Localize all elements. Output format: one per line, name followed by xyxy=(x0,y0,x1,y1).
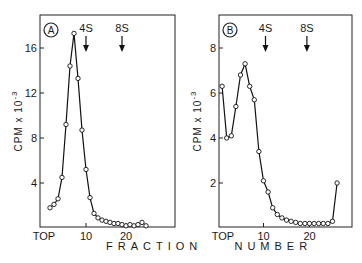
marker-label-8s: 8S xyxy=(115,22,128,34)
data-point xyxy=(289,219,293,223)
data-point xyxy=(307,221,311,225)
data-point xyxy=(84,167,88,171)
panel-letter: A xyxy=(48,25,55,36)
data-point xyxy=(80,128,84,132)
data-point xyxy=(64,122,68,126)
data-point xyxy=(248,84,252,88)
y-tick-label: 16 xyxy=(25,42,37,54)
y-tick-label: 6 xyxy=(210,87,216,99)
data-point xyxy=(294,220,298,224)
panel-letter: B xyxy=(227,25,234,36)
marker-label-4s: 4S xyxy=(79,22,92,34)
panel-a-chart: 481216TOP1020CPM x 10-3A4S8S xyxy=(10,15,175,242)
data-point xyxy=(220,84,224,88)
data-point xyxy=(234,104,238,108)
data-point xyxy=(243,62,247,66)
arrowhead-icon xyxy=(304,45,310,52)
data-point xyxy=(48,206,52,210)
data-point xyxy=(303,221,307,225)
data-point xyxy=(225,136,229,140)
arrowhead-icon xyxy=(83,45,89,52)
x-tick-label: 10 xyxy=(80,230,92,242)
data-point xyxy=(88,195,92,199)
arrowhead-icon xyxy=(119,45,125,52)
panel-b-chart: 2468TOP1020CPM x 10-3B4S8S xyxy=(189,15,352,242)
y-axis-title: CPM x 10-3 xyxy=(10,90,24,151)
data-point xyxy=(335,181,339,185)
y-tick-label: 4 xyxy=(210,132,216,144)
y-axis-title: CPM x 10-3 xyxy=(189,90,203,151)
arrowhead-icon xyxy=(263,45,269,52)
x-tick-label: TOP xyxy=(33,230,55,242)
data-point xyxy=(229,134,233,138)
data-point xyxy=(60,175,64,179)
y-tick-label: 2 xyxy=(210,177,216,189)
data-point xyxy=(266,190,270,194)
data-point xyxy=(52,202,56,206)
data-point xyxy=(275,212,279,216)
x-axis-title: FRACTION NUMBER xyxy=(106,240,312,252)
data-point xyxy=(252,98,256,102)
plot-frame xyxy=(219,15,352,227)
y-tick-label: 8 xyxy=(210,42,216,54)
data-point xyxy=(317,221,321,225)
data-point xyxy=(271,206,275,210)
data-point xyxy=(298,221,302,225)
data-point xyxy=(312,221,316,225)
data-point xyxy=(140,220,144,224)
data-point xyxy=(92,211,96,215)
data-point xyxy=(330,219,334,223)
data-series-line xyxy=(50,33,146,225)
data-series-line xyxy=(222,64,337,224)
data-point xyxy=(280,216,284,220)
y-tick-label: 4 xyxy=(31,177,37,189)
data-point xyxy=(284,218,288,222)
plot-frame xyxy=(40,15,175,227)
data-point xyxy=(68,64,72,68)
y-tick-label: 8 xyxy=(31,132,37,144)
data-point xyxy=(261,179,265,183)
data-point xyxy=(56,197,60,201)
marker-label-4s: 4S xyxy=(259,22,272,34)
data-point xyxy=(257,149,261,153)
y-tick-label: 12 xyxy=(25,87,37,99)
data-point xyxy=(326,221,330,225)
marker-label-8s: 8S xyxy=(300,22,313,34)
data-point xyxy=(76,76,80,80)
data-point xyxy=(144,224,148,228)
data-point xyxy=(238,73,242,77)
data-point xyxy=(72,31,76,35)
figure: 481216TOP1020CPM x 10-3A4S8S 2468TOP1020… xyxy=(0,0,362,263)
data-point xyxy=(321,221,325,225)
